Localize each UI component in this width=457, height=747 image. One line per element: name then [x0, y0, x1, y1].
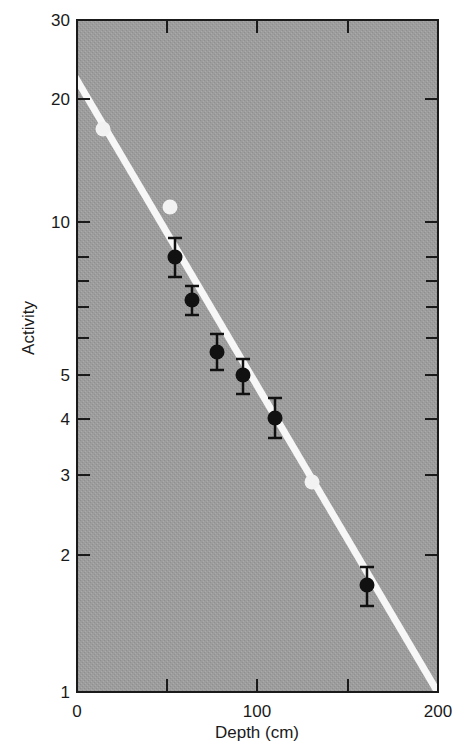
- plot-area: [77, 20, 438, 692]
- x-tick-label: 200: [424, 702, 452, 721]
- open-data-point: [163, 200, 178, 215]
- y-tick-label: 10: [51, 213, 70, 232]
- y-tick-label: 5: [61, 366, 70, 385]
- y-tick-labels: 30201054321: [51, 11, 70, 702]
- x-tick-label: 0: [72, 702, 81, 721]
- y-tick-label: 4: [61, 410, 70, 429]
- y-axis-title: Activity: [19, 301, 38, 355]
- x-axis-title: Depth (cm): [215, 723, 299, 742]
- activity-vs-depth-chart: 0100200 30201054321 Depth (cm) Activity: [0, 0, 457, 747]
- y-tick-label: 1: [61, 683, 70, 702]
- x-tick-label: 100: [243, 702, 271, 721]
- y-tick-label: 30: [51, 11, 70, 30]
- y-tick-label: 2: [61, 546, 70, 565]
- y-tick-label: 3: [61, 466, 70, 485]
- y-tick-label: 20: [51, 90, 70, 109]
- open-data-point: [305, 475, 320, 490]
- x-tick-labels: 0100200: [72, 702, 452, 721]
- open-data-point: [96, 122, 111, 137]
